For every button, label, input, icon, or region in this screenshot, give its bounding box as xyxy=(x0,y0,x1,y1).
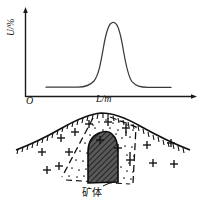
y-axis-arrow xyxy=(23,7,28,13)
origin-label: O xyxy=(26,96,33,106)
cross-section xyxy=(16,112,190,188)
ore-body xyxy=(88,132,118,183)
ore-body-label: 矿体 xyxy=(82,188,102,198)
x-axis-label: L/m xyxy=(96,94,112,104)
y-axis-label: U/% xyxy=(7,19,17,36)
anomaly-chart xyxy=(23,7,197,99)
anomaly-curve xyxy=(46,22,171,87)
x-axis-arrow xyxy=(191,94,197,99)
